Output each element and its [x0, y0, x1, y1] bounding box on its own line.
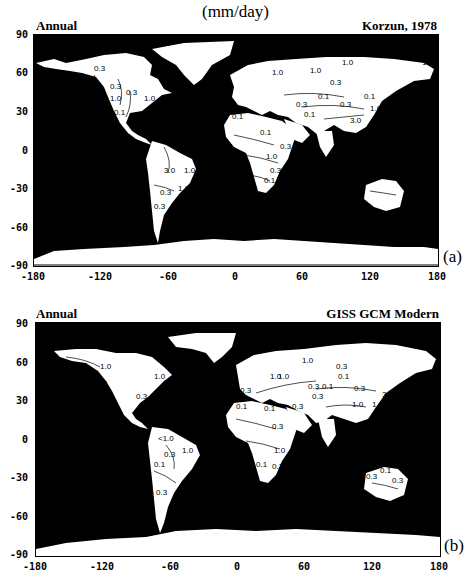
contour-label: 3.0 — [380, 412, 392, 421]
x-tick-120: 120 — [352, 561, 392, 572]
x-tick-neg180: -180 — [15, 561, 55, 572]
y-tick-neg30: -30 — [2, 183, 28, 194]
contour-label: 0.3 — [388, 166, 400, 175]
contour-label: 0.3 — [292, 402, 304, 411]
panel-a-title-right: Korzun, 1978 — [300, 18, 437, 34]
world-map-b: 1.0 1.0 0.3 0.3 <1.0 0.3 1.0 0.1 0.3 1.0… — [35, 322, 441, 557]
contour-label: 1.0 — [144, 94, 156, 103]
contour-label: 0.1 — [304, 110, 316, 119]
y-tick-0: 0 — [2, 434, 28, 445]
contour-label: 1.0 — [178, 184, 190, 193]
contour-label: 1.0 — [274, 446, 286, 455]
contour-label: 3.0 — [164, 166, 176, 175]
contour-label: 0.3 — [110, 82, 122, 91]
contour-label: 0.3 — [102, 394, 114, 403]
contour-label: 0.1 — [154, 460, 166, 469]
contour-label: 0.3 — [164, 450, 176, 459]
x-tick-neg180: -180 — [13, 271, 53, 282]
contour-label: 3.0 — [350, 116, 362, 125]
contour-label: 0.3 — [126, 88, 138, 97]
y-tick-neg90: -90 — [2, 260, 28, 271]
contour-label: 0.3 — [160, 188, 172, 197]
y-tick-neg60: -60 — [2, 222, 28, 233]
contour-label: 0.1 — [260, 128, 272, 137]
contour-label: 0.1 — [114, 108, 126, 117]
x-tick-180: 180 — [417, 271, 457, 282]
map-b-graphic: 1.0 1.0 0.3 0.3 <1.0 0.3 1.0 0.1 0.3 1.0… — [36, 323, 440, 556]
contour-label: 1.0 — [302, 356, 314, 365]
contour-label: 1.0 — [184, 166, 196, 175]
contour-label: 0.1 — [322, 382, 334, 391]
contour-label: 1.0 — [342, 58, 354, 67]
contour-label: 0.3 — [312, 392, 324, 401]
y-tick-30: 30 — [2, 395, 28, 406]
x-tick-neg60: -60 — [150, 561, 190, 572]
y-tick-neg30: -30 — [2, 472, 28, 483]
contour-label: 0.3 — [308, 382, 320, 391]
contour-label: 0.1 — [236, 402, 248, 411]
contour-label: 0.3 — [354, 384, 366, 393]
y-tick-60: 60 — [2, 357, 28, 368]
x-tick-0: 0 — [215, 271, 255, 282]
contour-label: 0.3 — [154, 202, 166, 211]
contour-label: 1.0 — [370, 104, 382, 113]
contour-label: 1.0 — [110, 94, 122, 103]
contour-label: 0.3 — [272, 422, 284, 431]
contour-label: 0.3 — [392, 476, 404, 485]
contour-label: 0.3 — [280, 142, 292, 151]
contour-label: 0.3 — [272, 462, 284, 471]
contour-label: 1.0 — [154, 372, 166, 381]
contour-label: 0.3 — [240, 386, 252, 395]
contour-label: 0.1 — [338, 372, 350, 381]
contour-label: 0.3 — [340, 100, 352, 109]
contour-label: 0.3 — [136, 392, 148, 401]
y-tick-60: 60 — [2, 67, 28, 78]
contour-label: 1.0 — [278, 372, 290, 381]
y-tick-neg60: -60 — [2, 511, 28, 522]
contour-label: 1.0 — [352, 400, 364, 409]
contour-label: 0.1 — [380, 466, 392, 475]
contour-label: 1.0 — [422, 58, 434, 67]
x-tick-neg60: -60 — [148, 271, 188, 282]
x-tick-0: 0 — [217, 561, 257, 572]
contour-label: 3.0 — [382, 390, 394, 399]
contour-label: 0.3 — [94, 64, 106, 73]
contour-label: 0.3 — [156, 488, 168, 497]
contour-label: 1.0 — [272, 68, 284, 77]
contour-label: 1.0 — [266, 152, 278, 161]
panel-a-title-left: Annual — [36, 18, 77, 34]
contour-label: <1.0 — [158, 434, 174, 443]
contour-label: 1.0 — [310, 66, 322, 75]
contour-label: 0.1 — [364, 92, 376, 101]
x-tick-60: 60 — [284, 561, 324, 572]
contour-label: 0.3 — [270, 166, 282, 175]
contour-label: 0.3 — [366, 472, 378, 481]
contour-label: 0.3 — [296, 100, 308, 109]
panel-a-label: (a) — [443, 247, 462, 267]
y-tick-0: 0 — [2, 145, 28, 156]
contour-label: 0.3 — [330, 78, 342, 87]
contour-label: 0.1 — [256, 460, 268, 469]
y-tick-30: 30 — [2, 106, 28, 117]
x-tick-60: 60 — [282, 271, 322, 282]
contour-label: 1.0 — [182, 446, 194, 455]
x-tick-neg120: -120 — [80, 271, 120, 282]
contour-label: 1.0 — [372, 400, 384, 409]
y-tick-neg90: -90 — [2, 549, 28, 560]
contour-label: 0.1 — [264, 404, 276, 413]
contour-label: 0.1 — [400, 180, 412, 189]
y-tick-90: 90 — [2, 318, 28, 329]
panel-b-label: (b) — [444, 536, 464, 556]
map-a-graphic: 0.3 0.3 0.3 1.0 1.0 0.1 3.0 1.0 1.0 0.3 … — [34, 35, 438, 266]
contour-label: 0.3 — [336, 362, 348, 371]
world-map-a: 0.3 0.3 0.3 1.0 1.0 0.1 3.0 1.0 1.0 0.3 … — [33, 34, 439, 267]
contour-label: 0.1 — [232, 112, 244, 121]
panel-b-title-left: Annual — [36, 306, 77, 322]
contour-label: 1.0 — [100, 362, 112, 371]
x-tick-120: 120 — [350, 271, 390, 282]
panel-b-title-right: GISS GCM Modern — [290, 306, 439, 322]
x-tick-180: 180 — [419, 561, 459, 572]
contour-label: 0.1 — [264, 176, 276, 185]
y-tick-90: 90 — [2, 29, 28, 40]
x-tick-neg120: -120 — [82, 561, 122, 572]
